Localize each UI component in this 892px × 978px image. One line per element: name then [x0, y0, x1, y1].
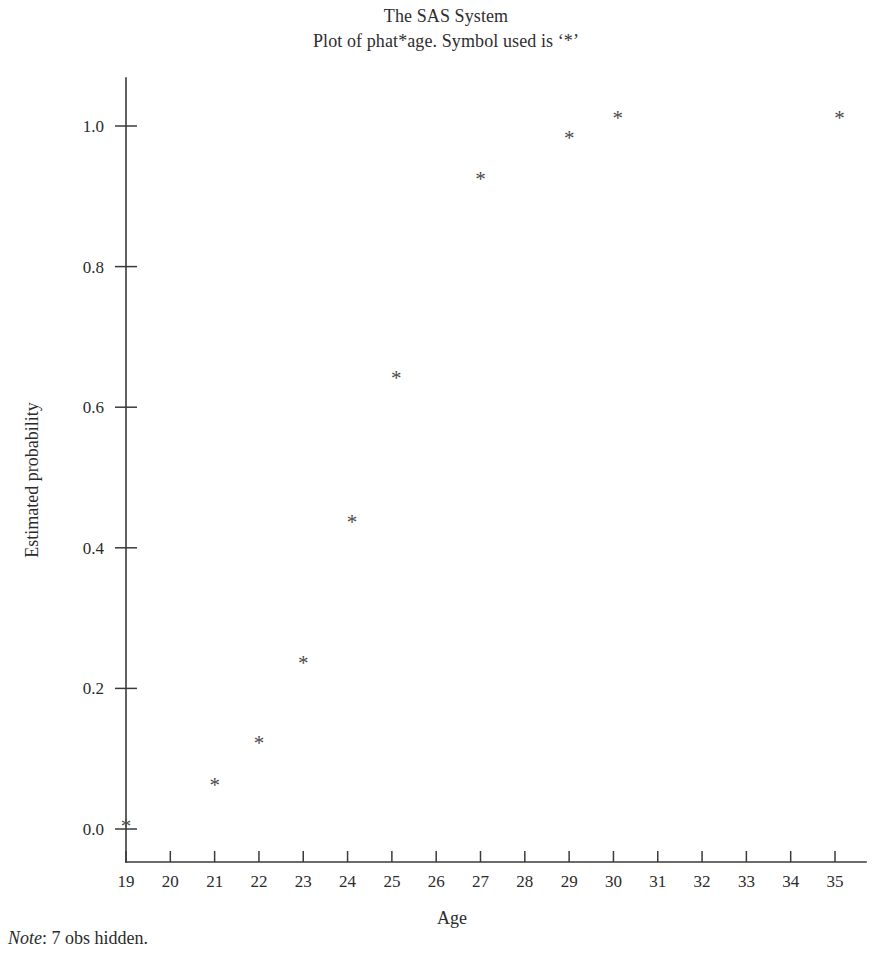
data-point-marker: * [564, 126, 575, 150]
x-tick-label: 21 [206, 872, 223, 891]
data-point-marker: * [834, 106, 845, 130]
y-tick-label: 0.2 [83, 679, 104, 698]
footnote-label: Note [8, 928, 42, 948]
x-tick-label: 27 [472, 872, 490, 891]
x-tick-label: 29 [561, 872, 578, 891]
y-tick-label: 0.8 [83, 258, 104, 277]
data-point-marker: * [347, 510, 358, 534]
data-point-marker: * [475, 167, 486, 191]
scatter-plot-canvas: 0.00.20.40.60.81.0 Estimated probability… [0, 0, 892, 978]
y-tick-label: 0.0 [83, 820, 104, 839]
y-tick-label: 1.0 [83, 117, 104, 136]
x-tick-label: 28 [516, 872, 533, 891]
data-points-layer: ********** [121, 106, 845, 839]
data-point-marker: * [613, 106, 624, 130]
x-tick-label: 35 [827, 872, 844, 891]
footnote: Note: 7 obs hidden. [8, 928, 148, 949]
x-tick-label: 30 [605, 872, 622, 891]
data-point-marker: * [121, 814, 132, 838]
x-axis-title: Age [437, 908, 467, 928]
y-axis-title: Estimated probability [22, 402, 42, 557]
data-point-marker: * [254, 731, 265, 755]
x-tick-label: 23 [295, 872, 312, 891]
data-point-marker: * [298, 651, 309, 675]
x-tick-label: 34 [782, 872, 800, 891]
footnote-text: 7 obs hidden. [47, 928, 148, 948]
y-axis: 0.00.20.40.60.81.0 Estimated probability [22, 78, 137, 862]
y-tick-label: 0.4 [83, 539, 105, 558]
x-axis: 1920212223242526272829303132333435 Age [118, 851, 867, 928]
x-tick-label: 22 [250, 872, 267, 891]
x-axis-ticks [126, 851, 835, 862]
x-tick-label: 26 [428, 872, 445, 891]
x-tick-label: 25 [383, 872, 400, 891]
data-point-marker: * [391, 366, 402, 390]
sas-plot-figure: The SAS System Plot of phat*age. Symbol … [0, 0, 892, 978]
x-tick-label: 24 [339, 872, 357, 891]
x-tick-label: 32 [694, 872, 711, 891]
x-axis-tick-labels: 1920212223242526272829303132333435 [118, 872, 844, 891]
x-tick-label: 33 [738, 872, 755, 891]
x-tick-label: 19 [118, 872, 135, 891]
x-tick-label: 31 [649, 872, 666, 891]
y-tick-label: 0.6 [83, 398, 104, 417]
y-axis-tick-labels: 0.00.20.40.60.81.0 [83, 117, 105, 839]
data-point-marker: * [209, 773, 220, 797]
x-tick-label: 20 [162, 872, 179, 891]
